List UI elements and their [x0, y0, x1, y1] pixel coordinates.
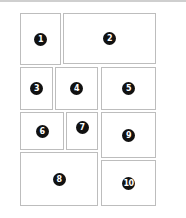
panel-7: 7 [66, 112, 98, 150]
number-badge: 5 [122, 82, 135, 95]
panel-4: 4 [55, 67, 98, 110]
number-badge: 10 [122, 177, 135, 190]
panel-3: 3 [20, 67, 53, 110]
number-badge: 1 [34, 33, 47, 46]
panel-6: 6 [20, 112, 64, 150]
number-badge: 6 [36, 125, 49, 138]
panel-10: 10 [101, 160, 156, 206]
number-badge: 8 [53, 173, 66, 186]
number-badge: 9 [122, 129, 135, 142]
number-badge: 3 [30, 82, 43, 95]
number-badge: 4 [70, 82, 83, 95]
number-badge: 2 [103, 32, 116, 45]
panel-9: 9 [101, 112, 156, 158]
panel-1: 1 [20, 13, 61, 65]
number-badge: 7 [76, 121, 89, 134]
panel-5: 5 [101, 67, 156, 110]
panel-8: 8 [20, 152, 98, 206]
panel-2: 2 [63, 13, 156, 64]
top-divider [0, 0, 186, 2]
